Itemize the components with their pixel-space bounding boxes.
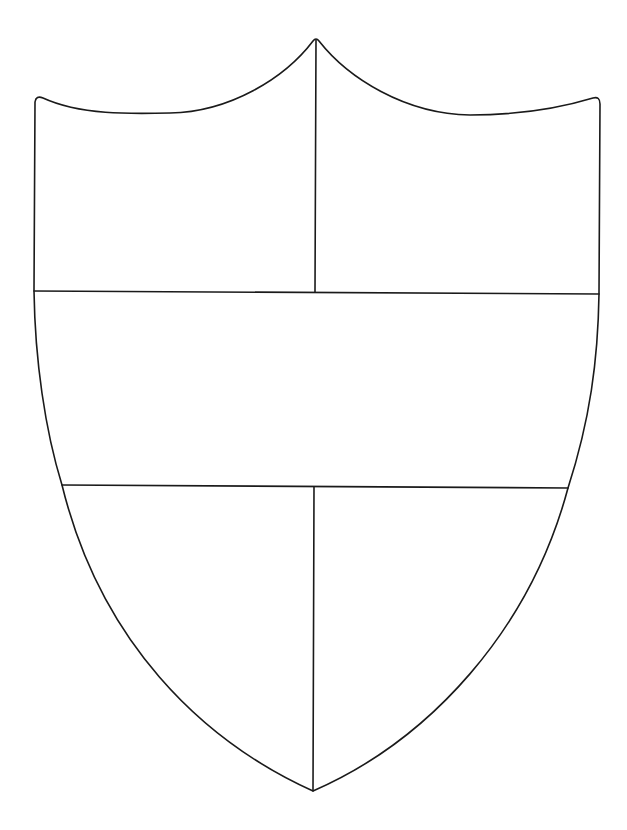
upper-vertical-divider bbox=[315, 40, 316, 292]
section-lower-right bbox=[313, 487, 568, 791]
section-upper-left bbox=[34, 39, 316, 292]
lower-vertical-divider bbox=[313, 487, 314, 791]
section-lower-left bbox=[62, 485, 314, 791]
shield-template-canvas bbox=[0, 0, 627, 830]
section-middle-band bbox=[34, 291, 599, 488]
shield-illustration bbox=[0, 0, 627, 830]
